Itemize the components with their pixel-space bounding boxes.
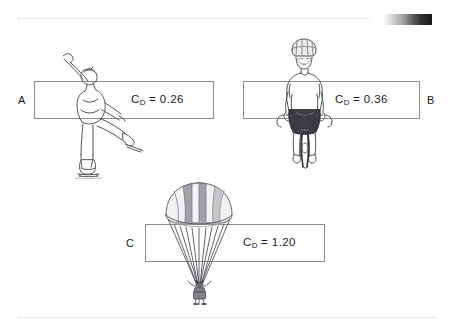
caption-text-b: CD = 0.36 (335, 93, 388, 107)
caption-value-a: 0.26 (160, 93, 184, 105)
dotted-rule-bottom (18, 317, 437, 318)
caption-equals-a: = (149, 93, 156, 105)
caption-symbol-a: C (131, 93, 140, 105)
dotted-rule-top (18, 18, 370, 19)
parachutist-illustration (152, 181, 246, 305)
panel-letter-a: A (18, 94, 25, 106)
caption-symbol-b: C (335, 93, 344, 105)
figure-canvas: A (0, 0, 455, 326)
caption-symbol-c: C (243, 236, 252, 248)
caption-text-a: CD = 0.26 (131, 93, 184, 107)
caption-text-c: CD = 1.20 (243, 236, 296, 250)
figure-skater-illustration (57, 48, 157, 180)
caption-subscript-c: D (252, 241, 258, 250)
caption-subscript-a: D (140, 98, 146, 107)
caption-value-c: 1.20 (272, 236, 296, 248)
caption-subscript-b: D (344, 98, 350, 107)
panel-letter-b: B (427, 94, 434, 106)
cyclist-illustration (266, 36, 340, 170)
caption-equals-c: = (261, 236, 268, 248)
grayscale-gradient-bar (383, 14, 432, 25)
caption-equals-b: = (353, 93, 360, 105)
caption-value-b: 0.36 (364, 93, 388, 105)
panel-letter-c: C (126, 237, 134, 249)
